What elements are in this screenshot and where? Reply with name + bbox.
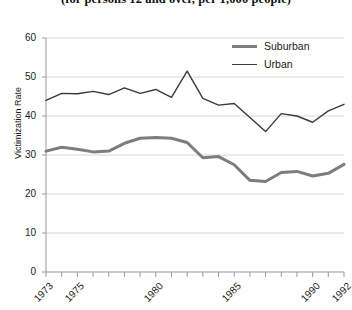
legend-item-suburban: Suburban	[232, 38, 342, 54]
legend-item-urban: Urban	[232, 56, 342, 72]
series-line-urban	[46, 71, 344, 131]
y-tick-label: 0	[10, 267, 36, 277]
y-tick-label: 20	[10, 189, 36, 199]
legend-swatch-urban	[232, 64, 257, 65]
y-tick-label: 40	[10, 111, 36, 121]
legend-swatch-suburban	[232, 45, 257, 48]
y-tick-label: 10	[10, 228, 36, 238]
chart-container: (for persons 12 and over, per 1,000 peop…	[0, 0, 352, 310]
y-tick-label: 60	[10, 33, 36, 43]
legend-label-suburban: Suburban	[264, 40, 310, 52]
y-tick-label: 30	[10, 150, 36, 160]
series-line-suburban	[46, 137, 344, 181]
data-series	[46, 71, 344, 181]
y-tick-label: 50	[10, 72, 36, 82]
legend-label-urban: Urban	[264, 58, 293, 70]
y-axis-ticks	[42, 38, 46, 272]
chart-legend: Suburban Urban	[232, 38, 342, 74]
x-axis-ticks	[46, 272, 344, 277]
